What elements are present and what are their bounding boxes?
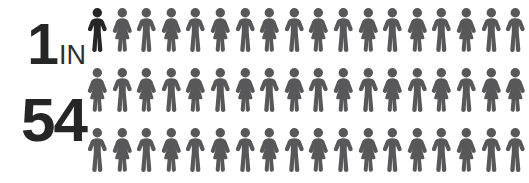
person-female-icon (331, 64, 356, 118)
ratio-connector-label: IN (59, 40, 86, 70)
person-male-icon (306, 64, 331, 118)
person-male-icon (257, 64, 282, 118)
person-female-icon (306, 124, 331, 178)
person-male-icon (233, 4, 258, 58)
person-male-icon (380, 4, 405, 58)
person-male-icon (479, 4, 504, 58)
ratio-line-one: 1IN (0, 14, 86, 74)
person-male-icon (183, 4, 208, 58)
person-female-icon (454, 4, 479, 58)
person-male-icon (134, 4, 159, 58)
person-female-icon (257, 124, 282, 178)
person-male-icon (282, 124, 307, 178)
person-female-icon (233, 64, 258, 118)
person-female-icon (110, 4, 135, 58)
person-female-icon (159, 124, 184, 178)
person-male-icon (233, 124, 258, 178)
person-male-icon (159, 64, 184, 118)
person-female-icon (356, 4, 381, 58)
person-male-icon (479, 124, 504, 178)
person-female-icon (208, 124, 233, 178)
person-female-icon (405, 4, 430, 58)
person-male-icon (331, 124, 356, 178)
person-male-icon (183, 124, 208, 178)
pictogram-grid (85, 0, 529, 183)
pictogram-row (85, 4, 529, 64)
ratio-line-two: 54 (0, 88, 86, 152)
ratio-numerator: 1 (27, 12, 58, 76)
person-female-icon (159, 4, 184, 58)
person-male-icon (503, 124, 528, 178)
person-male-icon (454, 64, 479, 118)
person-female-icon (405, 124, 430, 178)
person-female-icon (503, 64, 528, 118)
person-female-icon (134, 64, 159, 118)
person-male-icon (429, 124, 454, 178)
infographic-root: 1IN 54 (0, 0, 529, 183)
person-male-icon (282, 4, 307, 58)
pictogram-row (85, 124, 529, 183)
ratio-denominator: 54 (21, 85, 86, 154)
person-female-icon (380, 64, 405, 118)
person-female-icon (356, 124, 381, 178)
person-female-icon (306, 4, 331, 58)
person-female-icon (282, 64, 307, 118)
person-female-icon (454, 124, 479, 178)
person-male-icon (134, 124, 159, 178)
person-male-icon (110, 64, 135, 118)
person-female-icon (85, 64, 110, 118)
person-female-icon (208, 4, 233, 58)
person-female-icon (110, 124, 135, 178)
person-male-icon (429, 4, 454, 58)
person-female-icon (479, 64, 504, 118)
highlighted-person-male-icon (85, 4, 110, 58)
person-male-icon (380, 124, 405, 178)
pictogram-row (85, 64, 529, 124)
person-male-icon (85, 124, 110, 178)
person-female-icon (183, 64, 208, 118)
person-female-icon (257, 4, 282, 58)
person-male-icon (208, 64, 233, 118)
person-male-icon (331, 4, 356, 58)
person-female-icon (429, 64, 454, 118)
ratio-text-block: 1IN 54 (0, 0, 90, 183)
person-male-icon (405, 64, 430, 118)
person-male-icon (503, 4, 528, 58)
person-male-icon (356, 64, 381, 118)
